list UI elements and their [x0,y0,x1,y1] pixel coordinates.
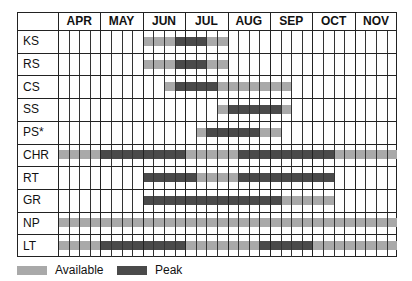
peak-bar [228,105,281,114]
row-gridline [17,189,397,190]
peak-bar [206,128,259,137]
row-label: SS [23,98,39,121]
peak-bar [238,150,333,159]
row-label: NP [23,212,40,235]
row-gridline [17,234,397,235]
row-gridline [17,144,397,145]
row-label: GR [23,189,41,212]
legend-available-label: Available [55,263,103,277]
month-gridline [270,12,271,257]
row-label: CHR [23,144,49,167]
peak-bar [259,241,312,250]
month-gridline [58,12,59,257]
peak-bar [238,173,333,182]
row-label: CS [23,75,40,98]
peak-bar [175,37,207,46]
row-label: RT [23,166,39,189]
month-header: JUL [185,12,227,30]
row-label: PS* [23,121,44,144]
legend-peak-label: Peak [155,263,182,277]
row-gridline [17,30,397,31]
available-swatch [17,266,47,275]
month-header: AUG [228,12,270,30]
legend-available: Available [17,263,103,277]
row-label: LT [23,234,36,257]
peak-bar [143,173,196,182]
month-gridline [312,12,313,257]
row-gridline [17,166,397,167]
month-gridline [355,12,356,257]
peak-swatch [117,266,147,275]
legend-peak: Peak [117,263,182,277]
month-header: APR [58,12,100,30]
row-gridline [17,53,397,54]
month-header: SEP [270,12,312,30]
row-label: RS [23,53,40,76]
row-gridline [17,212,397,213]
peak-bar [175,60,207,69]
month-header: MAY [100,12,142,30]
row-label: KS [23,30,39,53]
month-gridline [143,12,144,257]
month-header: OCT [312,12,354,30]
month-header: NOV [355,12,397,30]
row-gridline [17,98,397,99]
month-header: JUN [143,12,185,30]
month-gridline [228,12,229,257]
row-gridline [17,75,397,76]
month-gridline [100,12,101,257]
month-gridline [185,12,186,257]
row-gridline [17,121,397,122]
gantt-chart: KSRSCSSSPS*CHRRTGRNPLTAPRMAYJUNJULAUGSEP… [17,12,397,257]
